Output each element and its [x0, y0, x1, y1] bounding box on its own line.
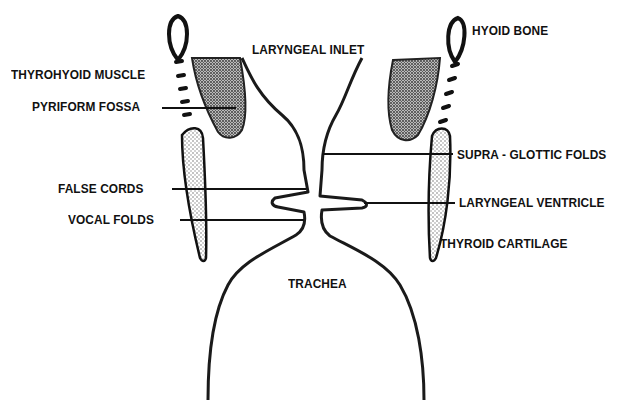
- thyroid-cartilage-left: [182, 128, 206, 261]
- hyoid-bone-right: [448, 18, 464, 62]
- label-false-cords: FALSE CORDS: [58, 182, 144, 196]
- pyriform-fossa-right: [388, 58, 440, 140]
- label-thyroid-cartilage: THYROID CARTILAGE: [440, 237, 568, 251]
- label-pyriform-fossa: PYRIFORM FOSSA: [32, 100, 140, 114]
- label-trachea: TRACHEA: [288, 277, 347, 291]
- pyriform-fossa-left: [192, 58, 246, 138]
- label-laryngeal-ventricle: LARYNGEAL VENTRICLE: [459, 196, 605, 210]
- label-hyoid-bone: HYOID BONE: [472, 24, 548, 38]
- label-thyrohyoid-muscle: THYROHYOID MUSCLE: [11, 68, 145, 82]
- label-supra-glottic-folds: SUPRA - GLOTTIC FOLDS: [457, 148, 606, 162]
- label-laryngeal-inlet: LARYNGEAL INLET: [252, 43, 364, 57]
- hyoid-bone-left: [169, 16, 187, 60]
- label-vocal-folds: VOCAL FOLDS: [68, 213, 154, 227]
- thyrohyoid-muscle-right: [440, 64, 458, 122]
